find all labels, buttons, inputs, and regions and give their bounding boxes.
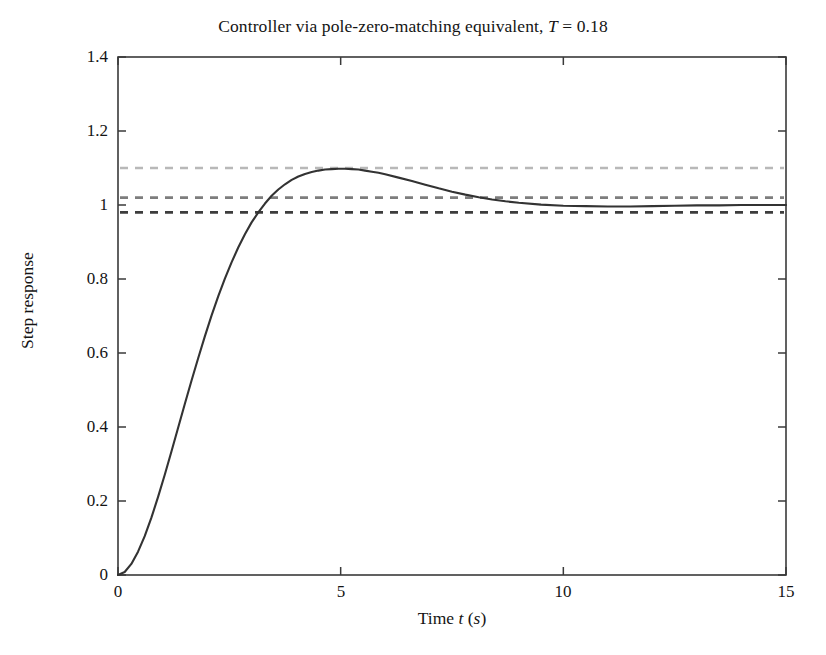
plot-frame <box>118 57 786 575</box>
figure-container: Controller via pole-zero-matching equiva… <box>0 0 826 655</box>
data-series-line <box>118 169 786 575</box>
plot-canvas <box>0 0 826 655</box>
